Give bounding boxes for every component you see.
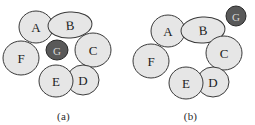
panel-a-diagram: ABCDEFG	[0, 0, 127, 105]
panel-a-caption: (a)	[0, 110, 127, 122]
node-label: G	[53, 45, 61, 57]
panel-b-diagram: ABCDEFG	[127, 0, 254, 105]
node-f: F	[133, 44, 169, 78]
node-label: C	[89, 43, 98, 58]
node-a: A	[151, 15, 185, 47]
node-label: B	[65, 18, 75, 34]
node-label: F	[17, 51, 24, 66]
panel-b: ABCDEFG (b)	[127, 0, 254, 125]
node-label: G	[232, 11, 240, 23]
figure-root: ABCDEFG (a) ABCDEFG (b)	[0, 0, 255, 125]
node-c: C	[75, 33, 111, 67]
node-f: F	[3, 41, 39, 75]
node-g-goal: G	[46, 40, 68, 60]
node-label: A	[163, 24, 173, 39]
node-label: E	[52, 74, 60, 89]
node-label: A	[31, 20, 41, 35]
node-g-goal: G	[226, 6, 246, 26]
node-label: D	[78, 73, 87, 88]
panel-a: ABCDEFG (a)	[0, 0, 127, 125]
node-e: E	[169, 67, 203, 99]
node-label: F	[147, 54, 154, 69]
node-label: E	[182, 76, 190, 91]
node-label: C	[220, 46, 229, 61]
node-e: E	[39, 65, 73, 97]
node-label: D	[208, 75, 217, 90]
panel-b-caption: (b)	[127, 110, 254, 122]
node-c: C	[206, 36, 242, 70]
node-label: B	[198, 23, 208, 39]
